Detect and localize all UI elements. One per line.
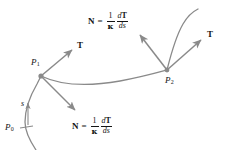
denominator-ds-bottom: ds [102, 127, 111, 136]
tangent-arrow-p1 [41, 50, 72, 76]
denominator-ds-top: ds [118, 22, 127, 31]
one-over-kappa-top: 1 κ [107, 12, 115, 30]
denominator-kappa-bottom: κ [91, 127, 99, 136]
one-over-kappa-bottom: 1 κ [91, 117, 99, 135]
normal-vector-symbol-top: N [88, 17, 95, 26]
p1-letter: P [31, 57, 37, 67]
p0-subscript: 0 [11, 126, 14, 132]
point-label-p1: P1 [31, 58, 40, 67]
normal-vector-symbol-bottom: N [72, 122, 79, 131]
denominator-kappa-top: κ [107, 22, 115, 31]
equals-sign-bottom: = [82, 122, 87, 131]
curve-segment-beyond-p2 [167, 9, 198, 70]
curve-tangent-normal-figure: N = 1 κ dT ds N = 1 κ dT ds T T P1 [0, 0, 229, 150]
curve-segment-p1-p2 [41, 70, 167, 84]
equals-sign-top: = [98, 17, 103, 26]
tangent-label-p2: T [207, 30, 213, 39]
p1-subscript: 1 [37, 61, 40, 67]
numerator-dT-top: dT [117, 12, 128, 21]
normal-arrow-p2 [140, 35, 167, 70]
p0-letter: P [5, 122, 11, 132]
point-label-p2: P2 [165, 76, 174, 85]
curve-segment-p0-p1 [25, 76, 41, 150]
p2-subscript: 2 [171, 79, 174, 85]
numerator-one-bottom: 1 [92, 117, 98, 126]
normal-formula-bottom: N = 1 κ dT ds [72, 117, 113, 135]
normal-arrow-p1 [41, 76, 75, 110]
normal-formula-top: N = 1 κ dT ds [88, 12, 129, 30]
tick-mark-p0 [20, 126, 33, 128]
tangent-label-p1: T [77, 41, 83, 50]
p2-letter: P [165, 75, 171, 85]
dT-over-ds-top: dT ds [117, 12, 128, 30]
tangent-arrow-p2 [167, 40, 201, 70]
arc-length-label: s [21, 100, 24, 108]
point-label-p0: P0 [5, 123, 14, 132]
numerator-one-top: 1 [108, 12, 114, 21]
numerator-dT-bottom: dT [101, 117, 112, 126]
dT-over-ds-bottom: dT ds [101, 117, 112, 135]
